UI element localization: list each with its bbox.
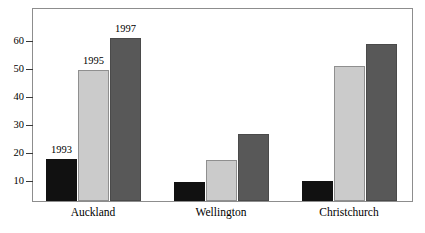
bar-christchurch-1995 [334, 66, 365, 201]
y-tick-label-40: 40 [2, 92, 24, 103]
x-axis-label-christchurch: Christchurch [289, 207, 409, 219]
y-tick-label-50: 50 [2, 64, 24, 75]
x-axis-label-wellington: Wellington [161, 207, 281, 219]
y-tick-label-20: 20 [2, 148, 24, 159]
y-tick-mark-30 [26, 125, 33, 126]
bar-auckland-1995 [78, 70, 109, 201]
y-axis-tick-labels: 60 50 40 30 20 10 [0, 0, 24, 233]
bar-wellington-1997 [238, 134, 269, 201]
bar-chart: 60 50 40 30 20 10 1993 1995 1997 Aucklan… [0, 0, 425, 233]
bar-annotation-1995: 1995 [73, 56, 114, 67]
y-tick-label-10: 10 [2, 176, 24, 187]
bar-wellington-1993 [174, 182, 205, 201]
y-tick-mark-40 [26, 97, 33, 98]
x-axis-label-auckland: Auckland [33, 207, 153, 219]
bar-auckland-1997 [110, 38, 141, 201]
y-tick-mark-50 [26, 69, 33, 70]
plot-area: 1993 1995 1997 [33, 9, 412, 201]
bar-annotation-1997: 1997 [105, 24, 146, 35]
y-tick-label-30: 30 [2, 120, 24, 131]
bar-auckland-1993 [46, 159, 77, 201]
y-tick-mark-60 [26, 41, 33, 42]
y-tick-label-60: 60 [2, 36, 24, 47]
y-tick-mark-10 [26, 181, 33, 182]
bar-christchurch-1993 [302, 181, 333, 201]
bar-christchurch-1997 [366, 44, 397, 201]
y-tick-mark-20 [26, 153, 33, 154]
bar-annotation-1993: 1993 [41, 145, 82, 156]
bar-wellington-1995 [206, 160, 237, 201]
